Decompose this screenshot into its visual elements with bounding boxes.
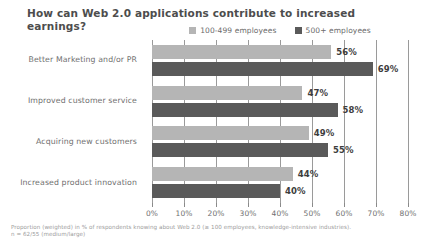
bar-row: 69% xyxy=(152,62,408,76)
legend-swatch-icon xyxy=(189,27,196,34)
bar-row: 40% xyxy=(152,184,408,198)
x-tick-mark xyxy=(280,203,281,207)
x-tick-label: 0% xyxy=(146,209,158,218)
bar-value-label: 49% xyxy=(314,128,335,138)
bar-row: 49% xyxy=(152,126,408,140)
x-tick-label: 50% xyxy=(304,209,321,218)
x-tick-mark xyxy=(312,203,313,207)
x-tick-label: 20% xyxy=(208,209,225,218)
legend-item-500-plus: 500+ employees xyxy=(295,26,371,35)
x-tick-mark xyxy=(376,203,377,207)
bar xyxy=(152,126,309,140)
plot-area: 56%69%47%58%49%55%44%40% xyxy=(152,40,408,203)
bar-value-label: 40% xyxy=(285,186,306,196)
category-axis: Better Marketing and/or PRImproved custo… xyxy=(0,40,145,203)
x-tick-mark xyxy=(184,203,185,207)
x-tick-label: 30% xyxy=(240,209,257,218)
footnote-line-1: Proportion (weighted) in % of respondent… xyxy=(11,224,421,231)
bar-row: 55% xyxy=(152,143,408,157)
bar xyxy=(152,45,331,59)
x-tick-label: 60% xyxy=(336,209,353,218)
bar xyxy=(152,184,280,198)
bar-value-label: 58% xyxy=(343,105,364,115)
x-tick-mark xyxy=(248,203,249,207)
legend-label: 100-499 employees xyxy=(200,26,276,35)
x-axis: 0%10%20%30%40%50%60%70%80% xyxy=(152,203,408,221)
bar xyxy=(152,143,328,157)
chart-legend: 100-499 employees 500+ employees xyxy=(152,24,408,36)
x-tick-label: 40% xyxy=(272,209,289,218)
x-tick-mark xyxy=(344,203,345,207)
bar xyxy=(152,86,302,100)
category-label: Acquiring new customers xyxy=(2,137,137,147)
x-tick-mark xyxy=(408,203,409,207)
legend-item-100-499: 100-499 employees xyxy=(189,26,276,35)
footnote-line-2: n = 62/55 (medium/large) xyxy=(11,231,421,238)
footnote: Proportion (weighted) in % of respondent… xyxy=(11,224,421,238)
bar-value-label: 56% xyxy=(336,47,357,57)
gridline xyxy=(408,40,409,203)
x-tick-mark xyxy=(152,203,153,207)
category-label: Improved customer service xyxy=(2,96,137,106)
chart-page: How can Web 2.0 applications contribute … xyxy=(0,0,425,245)
category-label: Better Marketing and/or PR xyxy=(2,55,137,65)
bar-row: 47% xyxy=(152,86,408,100)
bar xyxy=(152,62,373,76)
category-label: Increased product innovation xyxy=(2,178,137,188)
x-tick-label: 10% xyxy=(176,209,193,218)
x-tick-label: 70% xyxy=(368,209,385,218)
bar-value-label: 44% xyxy=(298,169,319,179)
bar xyxy=(152,103,338,117)
bar-value-label: 55% xyxy=(333,145,354,155)
bar-value-label: 47% xyxy=(307,88,328,98)
bar xyxy=(152,167,293,181)
bar-row: 44% xyxy=(152,167,408,181)
legend-label: 500+ employees xyxy=(306,26,371,35)
bar-value-label: 69% xyxy=(378,64,399,74)
x-tick-mark xyxy=(216,203,217,207)
x-tick-label: 80% xyxy=(400,209,417,218)
bar-row: 56% xyxy=(152,45,408,59)
bar-row: 58% xyxy=(152,103,408,117)
legend-swatch-icon xyxy=(295,27,302,34)
